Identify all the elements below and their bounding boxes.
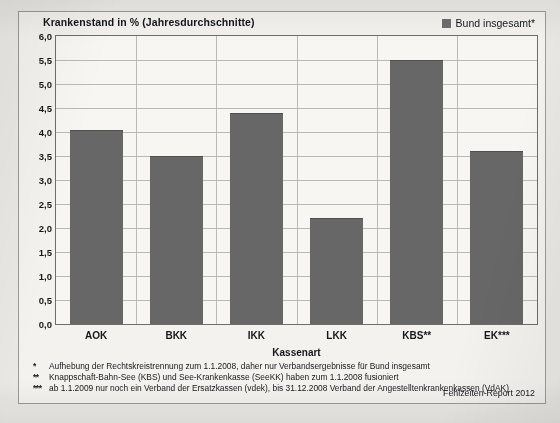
x-tick-label: IKK <box>248 330 265 341</box>
x-gridline <box>377 36 378 324</box>
chart-legend: Bund insgesamt* <box>442 17 535 29</box>
bar-aok <box>70 130 123 324</box>
plot-area: 6,05,55,04,54,03,53,02,52,01,51,00,50,0A… <box>55 35 538 325</box>
y-tick-label: 4,5 <box>39 103 52 114</box>
bar-kbs <box>390 60 443 324</box>
footnote-marker: *** <box>33 383 49 394</box>
y-tick-label: 5,5 <box>39 55 52 66</box>
x-tick-label: EK*** <box>484 330 510 341</box>
footnote-item: *Aufhebung der Rechtskreistrennung zum 1… <box>33 361 537 372</box>
y-tick-label: 3,0 <box>39 175 52 186</box>
y-tick-label: 1,0 <box>39 271 52 282</box>
x-gridline <box>136 36 137 324</box>
footnote-text: Knappschaft-Bahn-See (KBS) und See-Krank… <box>49 372 537 383</box>
y-tick-label: 0,5 <box>39 295 52 306</box>
footnote-marker: ** <box>33 372 49 383</box>
x-tick-label: AOK <box>85 330 107 341</box>
y-tick-label: 4,0 <box>39 127 52 138</box>
y-tick-label: 5,0 <box>39 79 52 90</box>
legend-swatch-icon <box>442 19 451 28</box>
y-tick-label: 2,5 <box>39 199 52 210</box>
legend-label: Bund insgesamt* <box>456 17 535 29</box>
y-tick-label: 1,5 <box>39 247 52 258</box>
footnote-marker: * <box>33 361 49 372</box>
footnote-text: Aufhebung der Rechtskreistrennung zum 1.… <box>49 361 537 372</box>
x-gridline <box>297 36 298 324</box>
footnote-item: **Knappschaft-Bahn-See (KBS) und See-Kra… <box>33 372 537 383</box>
source-label: Fehlzeiten-Report 2012 <box>443 388 535 398</box>
bar-bkk <box>150 156 203 324</box>
bar-lkk <box>310 218 363 324</box>
x-tick-label: KBS** <box>402 330 431 341</box>
x-axis-title: Kassenart <box>55 347 538 358</box>
chart-title: Krankenstand in % (Jahresdurchschnitte) <box>43 16 255 28</box>
y-tick-label: 2,0 <box>39 223 52 234</box>
chart-figure: Krankenstand in % (Jahresdurchschnitte) … <box>18 11 546 404</box>
y-tick-label: 6,0 <box>39 31 52 42</box>
x-gridline <box>457 36 458 324</box>
x-tick-label: LKK <box>326 330 347 341</box>
bar-ek <box>470 151 523 324</box>
bar-ikk <box>230 113 283 324</box>
y-tick-label: 0,0 <box>39 319 52 330</box>
x-tick-label: BKK <box>165 330 187 341</box>
x-gridline <box>216 36 217 324</box>
y-tick-label: 3,5 <box>39 151 52 162</box>
